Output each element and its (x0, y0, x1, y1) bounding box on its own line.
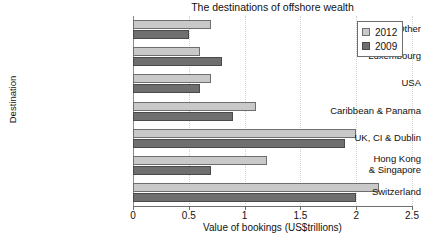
bar (133, 57, 222, 66)
bar (133, 30, 189, 39)
legend-swatch-icon (362, 42, 370, 50)
bar (133, 166, 211, 175)
category-label: UK, CI & Dublin (297, 132, 425, 143)
category-label: USA (297, 77, 425, 88)
x-tick-label: 0.5 (169, 210, 209, 221)
category-label: Switzerland (297, 186, 425, 197)
x-tick-label: 0 (113, 210, 153, 221)
x-tick-label: 2 (336, 210, 376, 221)
category-label: Caribbean & Panama (297, 105, 425, 116)
x-tick-label: 2.5 (392, 210, 425, 221)
bar (133, 102, 256, 111)
legend-item: 2009 (362, 39, 397, 53)
legend-label: 2009 (375, 41, 397, 52)
category-label: Hong Kong & Singapore (297, 153, 425, 175)
x-tick-label: 1.5 (280, 210, 320, 221)
bar (133, 47, 200, 56)
bar (133, 74, 211, 83)
legend-label: 2012 (375, 27, 397, 38)
bar (133, 84, 200, 93)
legend-swatch-icon (362, 28, 370, 36)
bar-chart: The destinations of offshore wealth Dest… (0, 0, 425, 239)
legend: 20122009 (357, 21, 403, 57)
x-axis (133, 206, 412, 207)
bar (133, 20, 211, 29)
legend-item: 2012 (362, 25, 397, 39)
x-tick-label: 1 (225, 210, 265, 221)
chart-title: The destinations of offshore wealth (133, 1, 412, 14)
x-axis-title: Value of bookings (US$trillions) (133, 222, 412, 233)
bar (133, 112, 233, 121)
y-axis-title: Destination (7, 55, 18, 145)
bar (133, 156, 267, 165)
